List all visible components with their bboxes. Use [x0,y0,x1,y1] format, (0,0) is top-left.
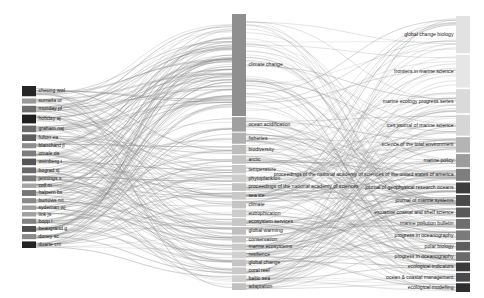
sankey-node-keyword[interactable]: marine ecosystems [232,244,246,251]
sankey-node-label: marine ecology progress series [383,98,454,104]
sankey-node-author[interactable]: graham naj [22,126,36,133]
sankey-node-label: proceedings of the national academy of s… [274,171,454,177]
sankey-node-label: arctic [249,156,262,162]
sankey-node-author[interactable]: bograd sj [22,167,36,173]
sankey-node-label: omale da [39,150,60,156]
sankey-node-author[interactable]: link js [22,212,36,216]
sankey-node-label: eutrophication [249,210,281,216]
sankey-node-journal[interactable]: marine ecology progress series [456,89,470,113]
sankey-node-label: biodiversity [249,146,275,152]
sankey-node-keyword[interactable]: sea ice [232,192,246,200]
sankey-node-label: marine pollution bulletin [400,220,454,226]
sankey-node-keyword[interactable]: climate [232,201,246,209]
sankey-node-keyword[interactable]: ocean acidification [232,117,246,131]
sankey-node-author[interactable]: doney sc [22,234,36,239]
sankey-node-keyword[interactable]: phytoplankton [232,175,246,183]
sankey-node-label: ecosystem services [249,218,294,224]
sankey-node-keyword[interactable]: proceedings of the national academy of s… [232,183,246,191]
sankey-node-keyword[interactable]: conservation [232,236,246,243]
sankey-node-keyword[interactable]: temperature [232,165,246,174]
sankey-node-keyword[interactable]: adaptation [232,283,246,290]
sankey-node-label: climate [249,201,265,207]
sankey-node-author[interactable]: weinberg t [22,159,36,166]
sankey-node-label: polar biology [425,243,454,249]
sankey-node-label: progress in oceanography [395,253,454,259]
sankey-node-label: global change [249,259,281,265]
sankey-node-label: progress in oceanography [395,232,454,238]
sankey-node-journal[interactable]: frontiers in marine science [456,55,470,88]
sankey-node-label: hobday aj [39,115,61,121]
sankey-node-label: cheung wwl [39,87,66,93]
sankey-node-label: climate change [249,61,283,67]
sankey-node-journal[interactable]: journal of geophysical research oceans [456,182,470,193]
sankey-node-journal[interactable]: progress in oceanography [456,230,470,240]
sankey-node-keyword[interactable]: fisheries [232,133,246,144]
sankey-node-label: fulton ea [39,134,59,140]
sankey-node-journal[interactable]: polar biology [456,242,470,251]
sankey-node-journal[interactable]: ocean & coastal management [456,273,470,282]
sankey-node-label: marine policy [423,157,453,163]
sankey-node-keyword[interactable]: climate change [232,14,246,116]
sankey-node-label: science of the total environment [382,141,455,147]
sankey-node-author[interactable]: burrows mt [22,198,36,203]
sankey-node-journal[interactable]: marine policy [456,154,470,167]
sankey-canvas: cheung wwlsumaila urmunday plhobday ajgr… [0,0,484,298]
sankey-node-label: halpern bs [39,189,63,195]
sankey-node-journal[interactable]: ecological modelling [456,283,470,292]
sankey-node-label: jennings s [38,175,62,181]
sankey-node-journal[interactable]: proceedings of the national academy of s… [456,169,470,181]
sankey-node-author[interactable]: omale da [22,151,36,157]
sankey-node-journal[interactable]: ices journal of marine science [456,115,470,136]
sankey-node-journal[interactable]: science of the total environment [456,137,470,152]
sankey-node-author[interactable]: munday pl [22,106,36,113]
sankey-node-author[interactable]: coll m [22,183,36,187]
sankey-node-label: journal of geophysical research oceans [364,184,454,190]
sankey-node-label: ocean & coastal management [386,274,454,280]
sankey-node-journal[interactable]: journal of marine systems [456,195,470,206]
sankey-node-keyword[interactable]: ecosystem services [232,218,246,226]
sankey-node-label: adaptation [249,283,273,289]
sankey-node-label: baltic sea [249,275,271,281]
sankey-node-label: sea ice [249,192,265,198]
sankey-node-author[interactable]: blanchard jl [22,143,36,148]
sankey-node-author[interactable]: cheung wwl [22,86,36,96]
sankey-node-journal[interactable]: progress in oceanography [456,252,470,261]
sankey-node-label: doney sc [39,233,60,239]
sankey-node-label: journal of marine systems [394,197,453,203]
sankey-node-keyword[interactable]: arctic [232,155,246,164]
sankey-node-keyword[interactable]: resilience [232,252,246,259]
sankey-node-label: blanchard jl [39,142,65,148]
sankey-node-label: ices journal of marine science [386,122,453,128]
sankey-node-author[interactable]: hobday aj [22,115,36,124]
sankey-node-author[interactable]: fulton ea [22,134,36,141]
sankey-node-label: graham naj [39,125,64,131]
sankey-node-label: ocean acidification [249,121,291,127]
sankey-node-label: weinberg t [39,158,63,164]
sankey-node-author[interactable]: sumaila ur [22,98,36,103]
sankey-node-author[interactable]: duarte cm [22,241,36,248]
sankey-node-author[interactable]: sydeman wj [22,205,36,209]
sankey-node-journal[interactable]: global change biology [456,16,470,53]
sankey-node-keyword[interactable]: biodiversity [232,145,246,154]
sankey-node-journal[interactable]: estuarine coastal and shelf science [456,208,470,218]
sankey-node-label: bograd sj [39,167,60,173]
sankey-node-keyword[interactable]: eutrophication [232,210,246,218]
sankey-node-label: proceedings of the national academy of s… [249,183,360,189]
sankey-node-keyword[interactable]: baltic sea [232,275,246,282]
sankey-node-keyword[interactable]: coral reef [232,267,246,274]
sankey-node-label: duarte cm [39,241,62,247]
sankey-node-label: munday pl [39,105,63,111]
sankey-node-journal[interactable]: ecological indicators [456,263,470,272]
sankey-node-author[interactable]: bopp l [22,219,36,224]
sankey-node-journal[interactable]: marine pollution bulletin [456,219,470,229]
sankey-node-label: sumaila ur [39,97,63,103]
sankey-node-label: sydeman wj [39,204,66,210]
sankey-node-label: bopp l [39,218,53,224]
sankey-node-keyword[interactable]: global warming [232,227,246,235]
sankey-node-author[interactable]: beaugrand g [22,226,36,232]
sankey-node-label: temperature [249,166,277,172]
sankey-node-keyword[interactable]: global change [232,259,246,266]
sankey-node-label: fisheries [249,135,268,141]
sankey-node-author[interactable]: jennings s [22,175,36,181]
sankey-node-author[interactable]: halpern bs [22,190,36,196]
